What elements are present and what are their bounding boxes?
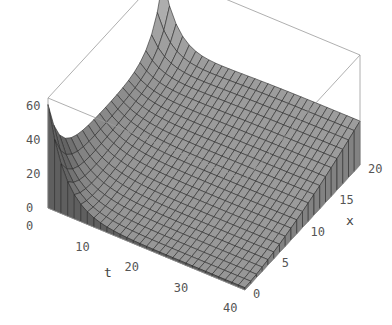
t-tick-label: 40 (223, 301, 237, 315)
z-tick-label: 40 (26, 133, 40, 147)
t-tick-label: 0 (26, 219, 33, 233)
x-tick-label: 10 (311, 225, 325, 239)
box-edge (163, 0, 360, 55)
t-tick-label: 10 (75, 240, 89, 254)
x-tick-label: 15 (339, 193, 353, 207)
z-tick-label: 20 (26, 167, 40, 181)
surface-mesh (48, 0, 360, 290)
surface-patch (48, 105, 55, 211)
t-tick-label: 30 (174, 281, 188, 295)
z-tick-label: 60 (26, 99, 40, 113)
surface-patch (354, 121, 360, 171)
t-axis-label: t (104, 265, 112, 280)
t-tick-label: 20 (125, 260, 139, 274)
x-tick-label: 0 (253, 287, 260, 301)
x-axis-label: x (346, 213, 354, 228)
x-tick-label: 20 (368, 162, 382, 176)
surface-plot: 010203040051015200204060 t x (0, 0, 392, 325)
x-tick-label: 5 (282, 256, 289, 270)
z-tick-label: 0 (26, 201, 33, 215)
